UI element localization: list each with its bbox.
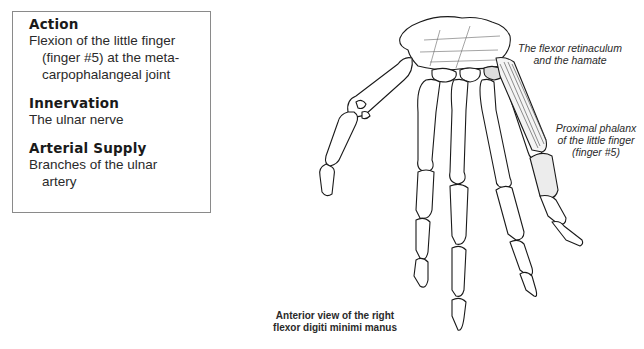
arterial-supply-heading: Arterial Supply [29, 140, 210, 156]
innervation-line-1: The ulnar nerve [29, 111, 210, 128]
origin-label-line-1: The flexor retinaculum [510, 42, 630, 54]
action-section: Action Flexion of the little finger (fin… [29, 16, 210, 83]
proximal-phalanx-little-finger [530, 153, 558, 198]
caption-line-1: Anterior view of the right [250, 310, 420, 322]
insertion-label-line-3: (finger #5) [548, 146, 644, 158]
origin-label: The flexor retinaculum and the hamate [510, 42, 630, 66]
info-box: Action Flexion of the little finger (fin… [12, 11, 211, 213]
action-line-3: carpophalangeal joint [29, 66, 210, 83]
index-finger-bones [414, 79, 440, 287]
innervation-section: Innervation The ulnar nerve [29, 95, 210, 128]
insertion-label-line-2: of the little finger [548, 134, 644, 146]
action-heading: Action [29, 16, 210, 32]
middle-finger-bones [450, 79, 468, 330]
arterial-supply-line-2: artery [29, 173, 210, 190]
action-line-1: Flexion of the little finger [29, 32, 210, 49]
thumb-bones [320, 58, 413, 196]
insertion-label: Proximal phalanx of the little finger (f… [548, 122, 644, 158]
action-line-2: (finger #5) at the meta- [29, 49, 210, 66]
innervation-heading: Innervation [29, 95, 210, 111]
insertion-label-line-1: Proximal phalanx [548, 122, 644, 134]
origin-label-line-2: and the hamate [510, 54, 630, 66]
carpal-bones [400, 17, 511, 82]
figure-caption: Anterior view of the right flexor digiti… [250, 310, 420, 334]
flexor-digiti-minimi-muscle [496, 58, 547, 153]
arterial-supply-line-1: Branches of the ulnar [29, 156, 210, 173]
caption-line-2: flexor digiti minimi manus [250, 322, 420, 334]
arterial-supply-section: Arterial Supply Branches of the ulnar ar… [29, 140, 210, 190]
